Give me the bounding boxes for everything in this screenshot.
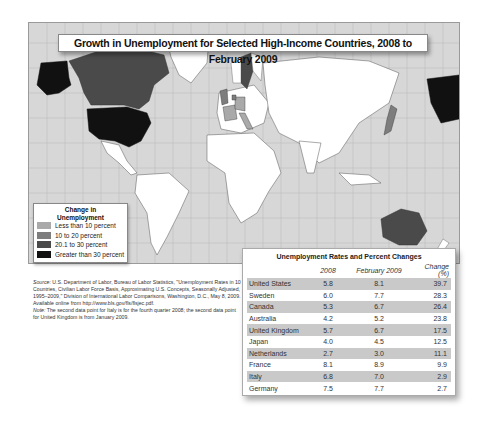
map-legend: Change in Unemployment Less than 10 perc… (33, 203, 128, 263)
cell-country: Germany (247, 382, 313, 394)
cell-change: 2.7 (415, 382, 451, 394)
legend-swatch-greater-than-30 (37, 251, 51, 258)
table-row: Australia 4.2 5.2 23.8 (247, 313, 451, 325)
region-australia (381, 209, 427, 245)
cell-feb-2009: 7.7 (343, 382, 415, 394)
cell-change: 26.4 (415, 301, 451, 313)
cell-change: 11.1 (415, 348, 451, 360)
region-netherlands (232, 95, 236, 100)
cell-feb-2009: 4.5 (343, 336, 415, 348)
cell-2008: 6.0 (313, 290, 343, 302)
column-header-feb-2009: February 2009 (343, 262, 415, 278)
cell-2008: 5.7 (313, 324, 343, 336)
cell-country: United States (247, 278, 313, 290)
legend-label: Greater than 30 percent (55, 251, 124, 258)
table-row: Netherlands 2.7 3.0 11.1 (247, 348, 451, 360)
cell-country: Australia (247, 313, 313, 325)
table-row: Sweden 6.0 7.7 28.3 (247, 290, 451, 302)
region-usa (87, 107, 151, 147)
source-label: Source: (33, 279, 51, 285)
legend-title-line1: Change in (34, 206, 127, 214)
cell-2008: 4.2 (313, 313, 343, 325)
cell-feb-2009: 5.2 (343, 313, 415, 325)
cell-feb-2009: 6.7 (343, 301, 415, 313)
legend-label: 20.1 to 30 percent (55, 241, 107, 248)
cell-country: Sweden (247, 290, 313, 302)
unemployment-table-panel: Unemployment Rates and Percent Changes 2… (242, 248, 456, 396)
legend-label: 10 to 20 percent (55, 232, 102, 239)
legend-swatch-10-to-20 (37, 232, 51, 239)
cell-2008: 4.0 (313, 336, 343, 348)
cell-2008: 2.7 (313, 348, 343, 360)
cell-change: 28.3 (415, 290, 451, 302)
legend-item: Less than 10 percent (37, 221, 127, 231)
cell-feb-2009: 8.9 (343, 359, 415, 371)
cell-change: 17.5 (415, 324, 451, 336)
cell-change: 12.5 (415, 336, 451, 348)
table-row: Germany 7.5 7.7 2.7 (247, 382, 451, 394)
table-header-row: 2008 February 2009 Change (%) (247, 262, 451, 278)
table-row: France 8.1 8.9 9.9 (247, 359, 451, 371)
cell-change: 2.9 (415, 371, 451, 383)
cell-2008: 8.1 (313, 359, 343, 371)
legend-swatch-less-than-10 (37, 222, 51, 229)
cell-country: Canada (247, 301, 313, 313)
region-germany (235, 97, 245, 111)
legend-item: 10 to 20 percent (37, 231, 127, 241)
cell-change: 39.7 (415, 278, 451, 290)
source-note: Source: U.S. Department of Labor, Bureau… (33, 279, 243, 322)
cell-2008: 7.5 (313, 382, 343, 394)
table-row: United States 5.8 8.1 39.7 (247, 278, 451, 290)
legend-item: 20.1 to 30 percent (37, 240, 127, 250)
column-header-country (247, 262, 313, 278)
note-label: Note: (33, 307, 45, 313)
region-japan (384, 105, 397, 135)
cell-change: 23.8 (415, 313, 451, 325)
unemployment-table: 2008 February 2009 Change (%) United Sta… (247, 262, 451, 394)
cell-feb-2009: 7.7 (343, 290, 415, 302)
legend-swatch-20-to-30 (37, 241, 51, 248)
legend-item: Greater than 30 percent (37, 250, 127, 260)
legend-label: Less than 10 percent (55, 222, 116, 229)
region-canada (69, 49, 169, 109)
note-text: The second data point for Italy is for t… (33, 307, 236, 320)
table-row: United Kingdom 5.7 6.7 17.5 (247, 324, 451, 336)
table-row: Italy 6.8 7.0 2.9 (247, 371, 451, 383)
cell-country: United Kingdom (247, 324, 313, 336)
cell-country: Netherlands (247, 348, 313, 360)
cell-change: 9.9 (415, 359, 451, 371)
column-header-2008: 2008 (313, 262, 343, 278)
table-title: Unemployment Rates and Percent Changes (243, 253, 455, 260)
cell-2008: 6.8 (313, 371, 343, 383)
cell-2008: 5.3 (313, 301, 343, 313)
cell-feb-2009: 3.0 (343, 348, 415, 360)
table-row: Japan 4.0 4.5 12.5 (247, 336, 451, 348)
region-alaska (37, 61, 71, 95)
legend-title-line2: Unemployment (34, 214, 127, 222)
cell-country: Japan (247, 336, 313, 348)
column-header-change: Change (%) (415, 262, 451, 278)
cell-2008: 5.8 (313, 278, 343, 290)
cell-feb-2009: 7.0 (343, 371, 415, 383)
table-row: Canada 5.3 6.7 26.4 (247, 301, 451, 313)
cell-country: France (247, 359, 313, 371)
source-text: U.S. Department of Labor, Bureau of Labo… (33, 279, 241, 306)
legend-title: Change in Unemployment (34, 206, 127, 221)
cell-country: Italy (247, 371, 313, 383)
cell-feb-2009: 8.1 (343, 278, 415, 290)
cell-feb-2009: 6.7 (343, 324, 415, 336)
chart-title: Growth in Unemployment for Selected High… (58, 34, 428, 52)
